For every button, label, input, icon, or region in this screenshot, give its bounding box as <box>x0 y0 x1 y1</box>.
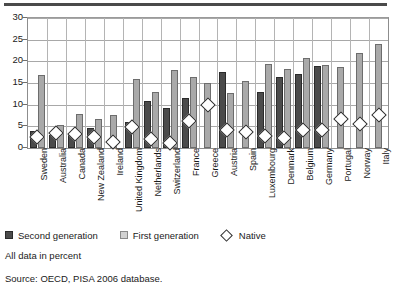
x-tick-label: Sweden <box>40 148 49 181</box>
legend-item-second-generation: Second generation <box>5 230 98 241</box>
bar-first-generation <box>133 79 140 148</box>
x-tick-label: Ireland <box>116 148 125 176</box>
bar-group <box>331 18 350 148</box>
bar-first-generation <box>375 44 382 148</box>
bar-group <box>293 18 312 148</box>
legend-swatch-first-generation-icon <box>120 231 128 239</box>
plot-canvas <box>27 17 389 149</box>
x-tick-label: Netherlands <box>154 148 163 197</box>
bar-group <box>161 18 180 148</box>
legend-label-native: Native <box>239 230 266 241</box>
chart-legend: Second generation First generation Nativ… <box>5 228 266 242</box>
bar-first-generation <box>190 77 197 149</box>
bar-group <box>369 18 388 148</box>
marker-native <box>352 117 368 133</box>
x-tick-label: Austria <box>230 148 239 176</box>
x-tick-label: Norway <box>363 148 372 179</box>
x-tick-label: New Zealand <box>97 148 106 201</box>
x-tick-label: Germany <box>325 148 334 185</box>
bar-first-generation <box>227 93 234 148</box>
legend-label-second-generation: Second generation <box>18 230 98 241</box>
x-tick-label: Denmark <box>287 148 296 185</box>
y-axis-tick-labels: 051015202530 <box>0 12 24 147</box>
bar-group <box>312 18 331 148</box>
bar-group <box>236 18 255 148</box>
bar-group <box>350 18 369 148</box>
legend-swatch-native-diamond-icon <box>220 229 233 242</box>
x-tick-label: Switzerland <box>173 148 182 195</box>
bar-group <box>199 18 218 148</box>
bar-group <box>180 18 199 148</box>
x-axis-category-labels: SwedenAustraliaCanadaNew ZealandIrelandU… <box>27 148 389 218</box>
bar-group <box>104 18 123 148</box>
x-tick-label: Luxembourg <box>268 148 277 198</box>
bar-first-generation <box>356 53 363 148</box>
marker-native <box>333 111 349 127</box>
x-tick-label: Spain <box>249 148 258 171</box>
data-unit-note: All data in percent <box>5 250 81 261</box>
bar-first-generation <box>337 67 344 148</box>
x-tick-label: United Kingdom <box>135 148 144 212</box>
bar-group <box>66 18 85 148</box>
x-tick-label: Canada <box>78 148 87 180</box>
bar-group <box>142 18 161 148</box>
legend-label-first-generation: First generation <box>133 230 199 241</box>
x-tick-label: Australia <box>59 148 68 183</box>
x-tick-label: Greece <box>211 148 220 178</box>
marker-native <box>238 124 254 140</box>
marker-native <box>200 98 216 114</box>
top-divider <box>4 3 387 6</box>
legend-item-native: Native <box>221 230 266 241</box>
legend-item-first-generation: First generation <box>120 230 199 241</box>
x-tick-label: France <box>192 148 201 176</box>
x-tick-label: Belgium <box>306 148 315 181</box>
bar-group <box>28 18 47 148</box>
source-note: Source: OECD, PISA 2006 database. <box>5 273 162 284</box>
bar-group <box>255 18 274 148</box>
x-tick-label: Portugal <box>344 148 353 182</box>
bar-group <box>123 18 142 148</box>
bar-first-generation <box>204 83 211 148</box>
legend-swatch-second-generation-icon <box>5 231 13 239</box>
bar-group <box>85 18 104 148</box>
x-tick-label: Italy <box>382 148 391 165</box>
bar-group <box>217 18 236 148</box>
marker-native <box>371 107 387 123</box>
bar-group <box>47 18 66 148</box>
plot-area-wrapper: 051015202530 <box>0 12 393 147</box>
bar-group <box>274 18 293 148</box>
